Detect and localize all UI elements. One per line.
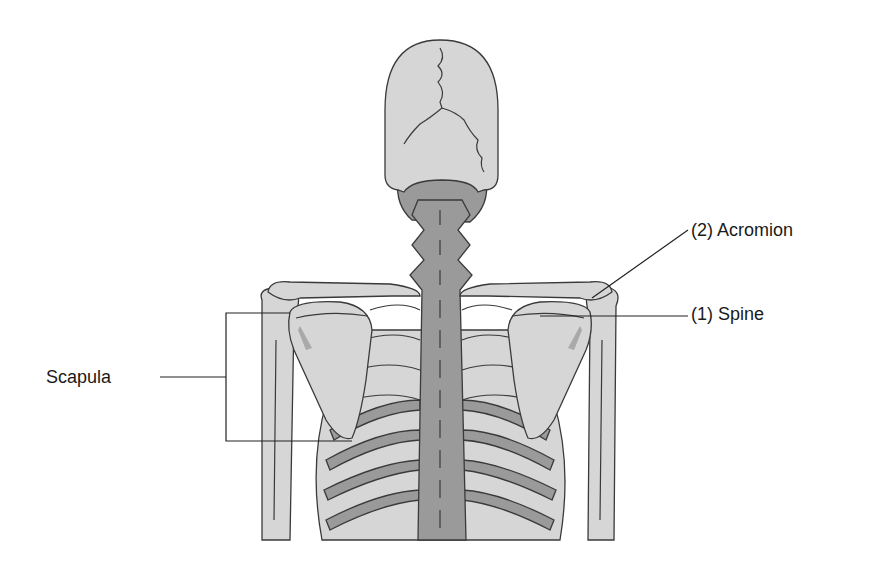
skeleton-diagram: .bl { fill:#d6d6d6; stroke:#3a3a3a; stro… (0, 0, 870, 561)
label-acromion: (2) Acromion (691, 221, 793, 239)
label-scapula: Scapula (46, 368, 111, 386)
skull (385, 40, 498, 222)
label-spine: (1) Spine (691, 305, 764, 323)
